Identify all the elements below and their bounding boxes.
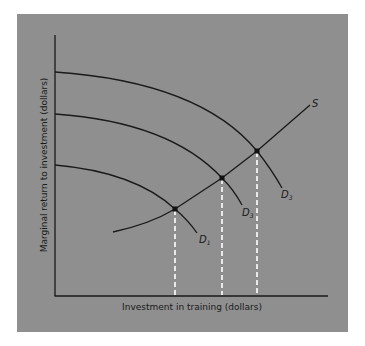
demand-curve-d3: [55, 72, 282, 188]
demand-curve-d2: [55, 114, 242, 205]
label-d2: D3: [242, 207, 254, 219]
y-axis-title: Marginal return to investment (dollars): [39, 78, 49, 253]
equilibrium-point-e1: [173, 207, 178, 212]
label-d1: D1: [199, 234, 211, 246]
equilibrium-point-e3: [255, 149, 260, 154]
chart-svg: S D3 D3 D1 Investment in training (dolla…: [0, 0, 365, 346]
x-axis-title: Investment in training (dollars): [122, 302, 262, 312]
label-s: S: [312, 98, 319, 109]
equilibrium-point-e2: [220, 176, 225, 181]
label-d3: D3: [281, 189, 293, 201]
